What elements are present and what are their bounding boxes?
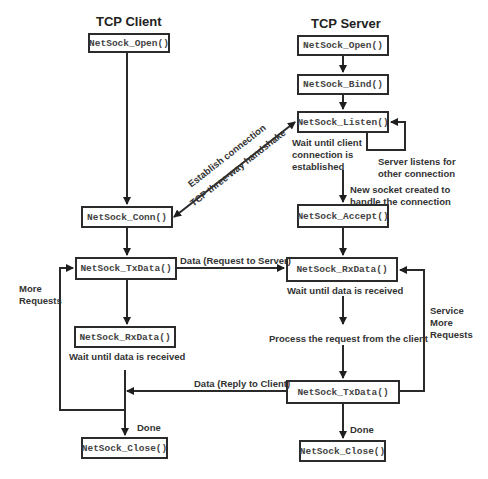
client-more-requests-label-1: More [19,283,42,295]
reply-label: Data (Reply to Client) [194,378,290,390]
server-bind-box: NetSock_Bind() [297,74,389,95]
new-socket-label-1: New socket created to [350,184,450,196]
client-close-box: NetSock_Close() [81,437,168,459]
server-title: TCP Server [311,16,381,31]
server-rxdata-box: NetSock_RxData() [286,257,398,282]
listen-wait-label-3: established [292,161,344,173]
new-socket-label-2: handle the connection [350,196,451,208]
server-listen-box: NetSock_Listen() [297,111,389,133]
client-done-label: Done [137,422,161,434]
listen-wait-label-1: Wait until client [292,137,362,149]
connector-lines [0,0,488,479]
server-close-box: NetSock_Close() [299,440,386,462]
server-open-box: NetSock_Open() [297,35,389,56]
client-title: TCP Client [96,14,162,29]
tcp-client-server-flow-diagram: TCP Client TCP Server NetSock_Open() Net… [0,0,488,479]
client-more-requests-label-2: Requests [19,295,62,307]
service-more-label-3: Requests [430,329,473,341]
client-conn-box: NetSock_Conn() [81,206,173,228]
client-rxdata-box: NetSock_RxData() [74,326,176,348]
server-done-label: Done [350,424,374,436]
server-txdata-box: NetSock_TxData() [286,380,400,404]
service-more-label-1: Service [430,305,464,317]
listens-other-label-1: Server listens for [378,156,456,168]
request-label: Data (Request to Server) [180,255,291,267]
listens-other-label-2: other connection [378,168,455,180]
process-request-label: Process the request from the client [269,333,428,345]
client-txdata-box: NetSock_TxData() [75,257,177,280]
client-rx-wait-label: Wait until data is received [69,351,185,363]
server-rx-wait-label: Wait until data is received [287,285,403,297]
client-open-box: NetSock_Open() [88,33,170,53]
listen-wait-label-2: connection is [292,149,353,161]
service-more-label-2: More [430,317,453,329]
